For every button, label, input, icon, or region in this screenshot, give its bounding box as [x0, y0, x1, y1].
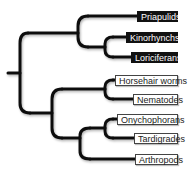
taxon-label-tardigrades: Tardigrades [134, 133, 178, 144]
upper-clade-node [78, 16, 88, 47]
lower-clade-node [52, 89, 62, 138]
taxon-label-nematodes: Nematodes [133, 94, 178, 105]
root-node [20, 33, 30, 113]
taxon-label-onychophorans: Onychophorans [117, 114, 178, 125]
taxon-label-horsehair-worms: Horsehair worms [115, 75, 178, 86]
tree-branches [0, 0, 192, 177]
taxon-label-loriciferans: Loriciferans [131, 52, 178, 63]
taxon-label-arthropods: Arthropods [135, 154, 178, 165]
taxon-label-kinorhynchs: Kinorhynchs [126, 32, 178, 43]
taxon-label-priapulids: Priapulids [137, 11, 178, 22]
